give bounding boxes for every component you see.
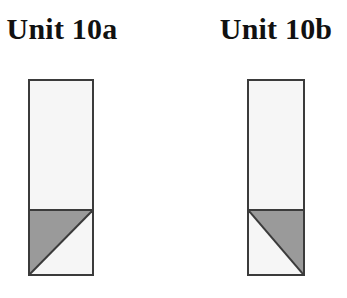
unit-column-wrap-10b (247, 79, 305, 276)
unit-column-10a (28, 79, 94, 276)
unit-column-10b (247, 79, 305, 276)
unit-column-wrap-10a (28, 79, 94, 276)
shaded-triangle-lower-left-10a (30, 211, 92, 274)
shaded-triangle-upper-right-10b (249, 211, 303, 274)
unit-group-10b: Unit 10b (214, 0, 338, 298)
unit-lower-section-10a (30, 211, 92, 274)
unit-group-10a: Unit 10a (0, 0, 124, 298)
unit-divider-line-10a (30, 209, 92, 211)
unit-label-10a: Unit 10a (0, 13, 124, 45)
unit-divider-line-10b (249, 209, 303, 211)
unit-upper-section-10b (249, 81, 303, 211)
unit-upper-section-10a (30, 81, 92, 211)
unit-label-10b: Unit 10b (214, 13, 338, 45)
unit-lower-section-10b (249, 211, 303, 274)
unit-comparison-figure: Unit 10a Unit 10b (0, 0, 347, 298)
